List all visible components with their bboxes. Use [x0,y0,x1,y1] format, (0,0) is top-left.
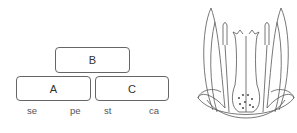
box-b: B [55,47,130,73]
flower-section-illustration [195,0,297,133]
whorl-label-st: st [104,105,111,116]
whorl-label-ca: ca [149,105,159,116]
box-b-label: B [89,54,96,66]
whorl-label-pe: pe [70,105,81,116]
box-a: A [16,76,91,101]
box-c: C [95,76,169,101]
box-c-label: C [128,83,136,95]
whorl-label-se: se [27,105,37,116]
box-a-label: A [50,83,57,95]
